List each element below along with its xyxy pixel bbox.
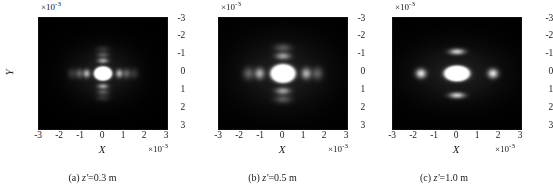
x-axis-multiplier-c: ×10-3 (495, 145, 515, 154)
x-tick-c-1: -2 (404, 131, 422, 141)
x-tick-c-4: 1 (468, 131, 486, 141)
intensity-map-c (393, 18, 521, 129)
x-tick-a-2: -1 (71, 131, 89, 141)
x-tick-a-6: 3 (157, 131, 175, 141)
y-tick-c-4: 1 (519, 85, 553, 95)
panel-b: ×10-3 -3 -2 -1 0 1 2 3 -3 -2 -1 0 1 2 3 … (180, 0, 365, 192)
x-axis-label-b: X (272, 144, 292, 155)
caption-c-value: =1.0 m (440, 172, 468, 183)
x-tick-b-5: 2 (315, 131, 333, 141)
x-tick-a-3: 0 (93, 131, 111, 141)
y-tick-c-1: -2 (519, 31, 553, 41)
panel-c: ×10-3 -3 -2 -1 0 1 2 3 -3 -2 -1 0 1 2 3 … (354, 0, 553, 192)
intensity-map-b (219, 18, 347, 129)
x-tick-a-0: -3 (29, 131, 47, 141)
y-tick-c-5: 2 (519, 103, 553, 113)
x-tick-b-6: 3 (337, 131, 355, 141)
caption-a-value: =0.3 m (88, 172, 116, 183)
y-axis-multiplier-b: ×10-3 (221, 3, 241, 12)
y-tick-c-3: 0 (519, 67, 553, 77)
x-tick-c-5: 2 (489, 131, 507, 141)
caption-b: (b) z'=0.5 m (180, 172, 365, 183)
y-axis-label-a: Y (4, 63, 15, 83)
x-tick-c-3: 0 (447, 131, 465, 141)
plot-area-c (392, 17, 522, 130)
y-tick-c-2: -1 (519, 49, 553, 59)
x-tick-b-0: -3 (209, 131, 227, 141)
caption-c: (c) z'=1.0 m (354, 172, 534, 183)
x-tick-a-1: -2 (50, 131, 68, 141)
caption-a-index: (a) (68, 172, 79, 183)
caption-b-index: (b) (248, 172, 260, 183)
y-axis-multiplier-a: ×10-3 (41, 3, 61, 12)
plot-area-b (218, 17, 348, 130)
x-axis-label-c: X (446, 144, 466, 155)
x-axis-label-a: X (92, 144, 112, 155)
x-tick-c-6: 3 (511, 131, 529, 141)
x-axis-multiplier-b: ×10-3 (328, 145, 348, 154)
x-tick-b-1: -2 (230, 131, 248, 141)
caption-c-index: (c) (420, 172, 431, 183)
y-tick-c-6: 3 (519, 121, 553, 131)
x-tick-b-4: 1 (294, 131, 312, 141)
figure-container: ×10-3 -3 -2 -1 0 1 2 3 -3 -2 -1 0 1 2 3 … (0, 0, 553, 192)
x-tick-b-3: 0 (273, 131, 291, 141)
x-tick-a-5: 2 (135, 131, 153, 141)
x-axis-multiplier-a: ×10-3 (148, 145, 168, 154)
x-tick-c-2: -1 (425, 131, 443, 141)
x-tick-a-4: 1 (114, 131, 132, 141)
x-tick-b-2: -1 (251, 131, 269, 141)
intensity-map-a (39, 18, 167, 129)
caption-a: (a) z'=0.3 m (0, 172, 185, 183)
plot-area-a (38, 17, 168, 130)
y-tick-c-0: -3 (519, 14, 553, 24)
x-tick-c-0: -3 (383, 131, 401, 141)
caption-b-value: =0.5 m (268, 172, 296, 183)
y-axis-multiplier-c: ×10-3 (395, 3, 415, 12)
panel-a: ×10-3 -3 -2 -1 0 1 2 3 -3 -2 -1 0 1 2 3 … (0, 0, 185, 192)
